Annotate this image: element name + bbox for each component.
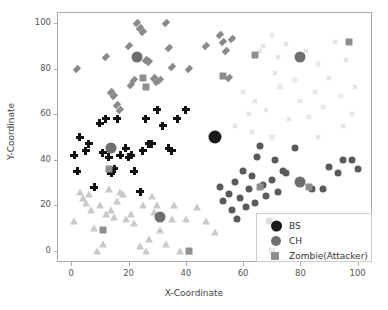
scatter-plot-figure: Y-Coordinate X-Coordinate 020406080100 0… xyxy=(0,0,388,310)
legend-swatch-circle-icon xyxy=(271,236,281,246)
y-tick-label: 0 xyxy=(23,245,51,255)
x-tick-mark xyxy=(129,262,130,266)
x-tick-mark xyxy=(358,262,359,266)
x-tick-mark xyxy=(300,262,301,266)
legend-label: Zombie(Attacker) xyxy=(289,251,368,261)
x-tick-label: 40 xyxy=(166,268,206,278)
y-tick-mark xyxy=(54,251,58,252)
legend-swatch-circle-icon xyxy=(271,221,282,232)
y-tick-label: 40 xyxy=(23,154,51,164)
x-tick-mark xyxy=(243,262,244,266)
legend: BSCHZombie(Attacker) xyxy=(256,213,372,262)
x-tick-label: 100 xyxy=(338,268,378,278)
y-tick-label: 60 xyxy=(23,108,51,118)
x-axis-title: X-Coordinate xyxy=(0,288,388,298)
legend-label: CH xyxy=(289,236,302,246)
x-tick-mark xyxy=(71,262,72,266)
y-axis-title: Y-Coordinate xyxy=(6,103,16,160)
x-tick-label: 20 xyxy=(109,268,149,278)
x-tick-label: 0 xyxy=(51,268,91,278)
y-tick-label: 100 xyxy=(23,17,51,27)
y-tick-mark xyxy=(54,160,58,161)
x-tick-mark xyxy=(186,262,187,266)
legend-label: BS xyxy=(289,221,301,231)
x-tick-label: 80 xyxy=(280,268,320,278)
y-tick-label: 20 xyxy=(23,199,51,209)
y-tick-mark xyxy=(54,205,58,206)
y-tick-mark xyxy=(54,23,58,24)
legend-swatch-square-icon xyxy=(271,252,279,260)
x-tick-label: 60 xyxy=(223,268,263,278)
y-tick-mark xyxy=(54,114,58,115)
y-tick-label: 80 xyxy=(23,63,51,73)
y-tick-mark xyxy=(54,69,58,70)
